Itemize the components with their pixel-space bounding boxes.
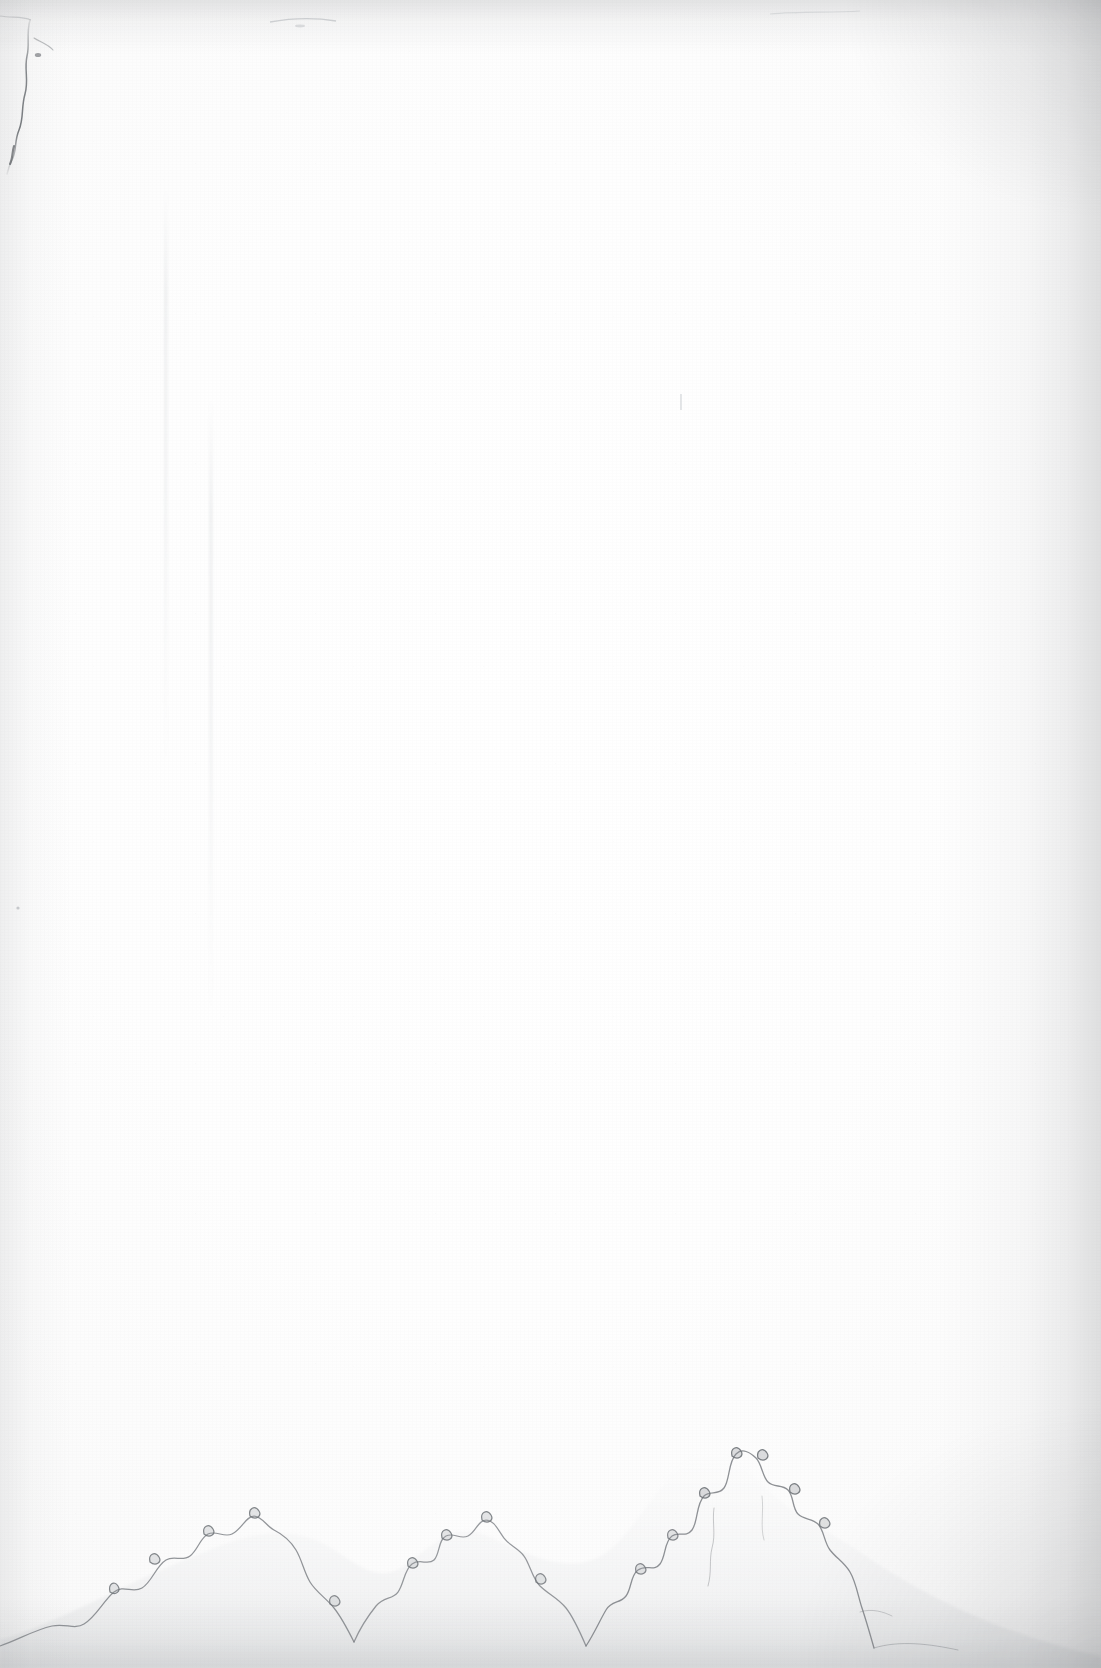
left-edge-shadow (0, 0, 70, 1668)
bottom-right-corner-shadow (801, 1408, 1101, 1668)
scanned-page (0, 0, 1101, 1668)
top-right-corner-shadow (841, 0, 1101, 220)
